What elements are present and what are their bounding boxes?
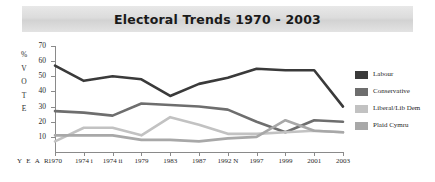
- x-axis-tick-label: 2001: [307, 158, 321, 165]
- legend: LabourConservativeLiberal/Lib DemPlaid C…: [355, 68, 435, 136]
- y-axis-tick-label: 10: [32, 133, 46, 141]
- x-axis-tick-label: 1974 ii: [103, 158, 123, 165]
- x-axis-tick-label: 1992 N: [217, 158, 238, 165]
- x-axis-tick: [285, 152, 286, 156]
- x-axis-tick-label: 1997: [250, 158, 264, 165]
- x-axis-tick-label: 2003: [336, 158, 350, 165]
- x-axis-tick-label: 1983: [163, 158, 177, 165]
- legend-swatch-icon: [355, 71, 368, 79]
- chart-title-band: Electoral Trends 1970 - 2003: [22, 6, 413, 32]
- y-axis-tick: [51, 76, 55, 77]
- page-title: Electoral Trends 1970 - 2003: [114, 12, 321, 27]
- x-axis-tick: [343, 152, 344, 156]
- y-axis-tick: [51, 107, 55, 108]
- legend-item: Liberal/Lib Dem: [355, 102, 435, 115]
- legend-label: Plaid Cymru: [373, 122, 409, 129]
- y-axis-tick-label: 40: [32, 87, 46, 95]
- x-axis-tick-label: 1987: [192, 158, 206, 165]
- y-axis-title: %VOTE: [18, 48, 30, 116]
- x-axis-tick: [257, 152, 258, 156]
- series-line-liberal-lib-dem: [55, 117, 343, 141]
- legend-swatch-icon: [355, 122, 368, 130]
- y-axis-tick: [51, 91, 55, 92]
- x-axis-tick: [55, 152, 56, 156]
- legend-label: Conservative: [373, 88, 410, 95]
- y-axis-tick-label: 30: [32, 103, 46, 111]
- y-axis-title-char: T: [18, 89, 30, 103]
- plot-area: [55, 46, 343, 152]
- y-axis-tick-label: 20: [32, 118, 46, 126]
- y-axis-title-char: O: [18, 75, 30, 89]
- legend-item: Labour: [355, 68, 435, 81]
- y-axis-title-char: E: [18, 102, 30, 116]
- x-axis-tick: [84, 152, 85, 156]
- y-axis-title-char: %: [18, 48, 30, 62]
- y-axis-tick: [51, 122, 55, 123]
- legend-item: Plaid Cymru: [355, 119, 435, 132]
- x-axis-tick-label: 1999: [278, 158, 292, 165]
- x-axis-tick: [141, 152, 142, 156]
- x-axis-tick: [170, 152, 171, 156]
- legend-item: Conservative: [355, 85, 435, 98]
- legend-swatch-icon: [355, 105, 368, 113]
- y-axis-tick-labels: 70605040302010: [30, 46, 46, 152]
- series-line-labour: [55, 66, 343, 107]
- chart-screenshot: Electoral Trends 1970 - 2003 %VOTE 70605…: [0, 0, 435, 182]
- y-axis-tick-label: 70: [32, 42, 46, 50]
- x-axis-tick: [314, 152, 315, 156]
- x-axis-tick: [199, 152, 200, 156]
- x-axis-tick-label: 1974 i: [75, 158, 93, 165]
- x-axis-tick: [228, 152, 229, 156]
- y-axis-tick: [51, 137, 55, 138]
- y-axis-tick: [51, 46, 55, 47]
- y-axis-title-char: V: [18, 62, 30, 76]
- y-axis-tick-label: 60: [32, 57, 46, 65]
- series-lines: [55, 46, 343, 152]
- legend-swatch-icon: [355, 88, 368, 96]
- x-axis-tick: [113, 152, 114, 156]
- y-axis-tick-label: 50: [32, 72, 46, 80]
- legend-label: Labour: [373, 71, 393, 78]
- y-axis-tick: [51, 61, 55, 62]
- x-axis-tick-labels: 19701974 i1974 ii1979198319871992 N19971…: [0, 158, 435, 170]
- legend-label: Liberal/Lib Dem: [373, 105, 420, 112]
- x-axis-tick-label: 1970: [48, 158, 62, 165]
- x-axis-tick-label: 1979: [134, 158, 148, 165]
